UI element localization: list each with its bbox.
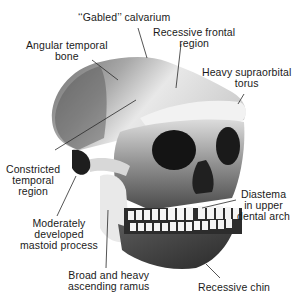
label-angular-temporal-bone: Angular temporal bone [26,40,108,62]
label-text: Recessive chin [198,282,270,293]
label-heavy-supraorbital-torus: Heavy supraorbital torus [202,67,291,89]
leader-gabled-calvarium [138,28,147,58]
label-mastoid-process: Moderately developed mastoid process [20,218,98,251]
label-diastema: Diastema in upper dental arch [237,189,290,222]
temporal-fossa [72,150,90,175]
label-text: dental arch [237,211,290,222]
right-orbit [216,127,240,165]
skull-diagram: ‘‘Gabled’’ calvarium Angular temporal bo… [0,0,295,298]
teeth [124,206,242,234]
leader-recessive-chin [206,264,220,278]
label-text: ‘‘Gabled’’ calvarium [78,12,170,23]
label-ascending-ramus: Broad and heavy ascending ramus [68,270,149,292]
left-orbit [152,130,196,170]
label-gabled-calvarium: ‘‘Gabled’’ calvarium [78,12,170,23]
label-recessive-frontal-region: Recessive frontal region [153,27,235,49]
label-recessive-chin: Recessive chin [198,282,270,293]
label-text: torus [202,78,291,89]
label-text: mastoid process [20,240,98,251]
label-text: bone [26,51,108,62]
label-constricted-temporal-region: Constricted temporal region [6,164,60,197]
label-text: region [153,38,235,49]
label-text: region [6,186,60,197]
label-text: ascending ramus [68,281,149,292]
